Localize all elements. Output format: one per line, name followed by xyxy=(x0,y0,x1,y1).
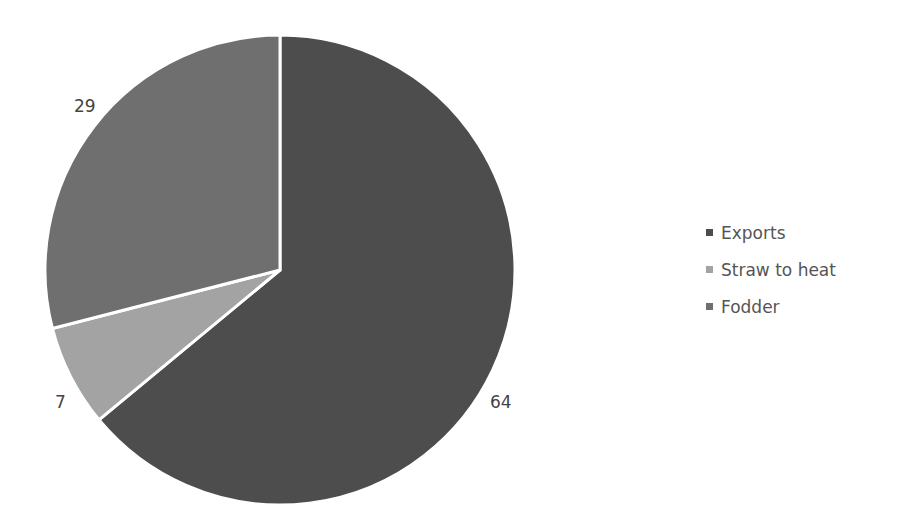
legend-label: Fodder xyxy=(721,297,780,317)
legend-label: Straw to heat xyxy=(721,260,836,280)
data-label-fodder: 29 xyxy=(74,96,96,116)
legend-swatch-icon xyxy=(706,303,713,310)
legend-item-exports: Exports xyxy=(706,214,836,251)
chart-legend: Exports Straw to heat Fodder xyxy=(706,214,836,325)
legend-swatch-icon xyxy=(706,266,713,273)
legend-label: Exports xyxy=(721,223,786,243)
data-label-straw-to-heat: 7 xyxy=(55,392,66,412)
legend-item-straw-to-heat: Straw to heat xyxy=(706,251,836,288)
data-label-exports: 64 xyxy=(490,392,512,412)
legend-swatch-icon xyxy=(706,229,713,236)
legend-item-fodder: Fodder xyxy=(706,288,836,325)
